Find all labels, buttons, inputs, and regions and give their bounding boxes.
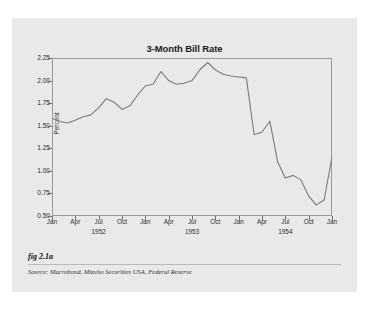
y-tick-label: 0.75 xyxy=(10,189,50,196)
y-tick-label: 1.25 xyxy=(10,144,50,151)
y-tick-label: 2.25 xyxy=(10,54,50,61)
y-tick-mark xyxy=(48,81,52,82)
plot-area: Percent 0.500.751.001.251.501.752.002.25… xyxy=(52,58,332,216)
caption-divider xyxy=(28,264,341,265)
x-tick-mark xyxy=(332,216,333,220)
x-axis-year-label: 1952 xyxy=(79,228,119,235)
x-tick-mark xyxy=(309,216,310,220)
x-tick-mark xyxy=(52,216,53,220)
data-line-svg xyxy=(52,58,332,216)
x-tick-mark xyxy=(239,216,240,220)
x-tick-mark xyxy=(285,216,286,220)
y-tick-mark xyxy=(48,193,52,194)
x-tick-mark xyxy=(122,216,123,220)
x-tick-mark xyxy=(192,216,193,220)
y-tick-mark xyxy=(48,126,52,127)
figure-card: 3-Month Bill Rate Percent 0.500.751.001.… xyxy=(12,18,357,292)
source-attribution: Source: Macrobond, Mizuho Securities USA… xyxy=(28,268,192,275)
y-tick-label: 1.50 xyxy=(10,122,50,129)
x-tick-mark xyxy=(145,216,146,220)
series-line-3-month-bill-rate xyxy=(52,63,332,206)
y-tick-label: 1.75 xyxy=(10,99,50,106)
x-tick-mark xyxy=(75,216,76,220)
y-tick-mark xyxy=(48,171,52,172)
chart-title: 3-Month Bill Rate xyxy=(12,43,357,54)
x-tick-mark xyxy=(262,216,263,220)
y-tick-mark xyxy=(48,148,52,149)
y-tick-mark xyxy=(48,58,52,59)
x-axis-year-label: 1953 xyxy=(172,228,212,235)
y-tick-mark xyxy=(48,103,52,104)
x-tick-mark xyxy=(99,216,100,220)
figure-number-label: fig 2.1a xyxy=(28,252,53,261)
y-tick-label: 1.00 xyxy=(10,167,50,174)
x-tick-mark xyxy=(169,216,170,220)
y-tick-label: 2.00 xyxy=(10,77,50,84)
x-tick-mark xyxy=(215,216,216,220)
x-axis-year-label: 1954 xyxy=(265,228,305,235)
